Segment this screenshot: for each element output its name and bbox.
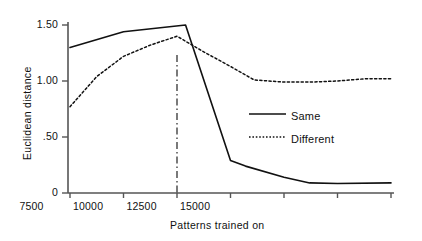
series-line-different <box>70 36 391 107</box>
chart-figure: 0.501.001.50 025005000750010000125001500… <box>0 0 422 241</box>
x-axis-tick-label: 15000 <box>180 200 422 212</box>
series-line-same <box>70 25 391 183</box>
legend-label-different: Different <box>291 133 334 145</box>
y-axis-tick-marks <box>62 25 68 193</box>
y-axis-tick-label: 1.50 <box>37 18 58 30</box>
chart-axes <box>62 22 394 198</box>
y-axis-tick-label: 1.00 <box>37 74 58 86</box>
chart-series-lines <box>70 25 391 183</box>
y-axis-title: Euclidean distance <box>21 66 33 160</box>
x-axis-title: Patterns trained on <box>170 219 264 231</box>
y-axis-tick-label: .50 <box>43 130 58 142</box>
y-axis-tick-label: 0 <box>52 186 58 198</box>
legend-label-same: Same <box>291 110 321 122</box>
legend-line-swatches <box>249 114 286 137</box>
